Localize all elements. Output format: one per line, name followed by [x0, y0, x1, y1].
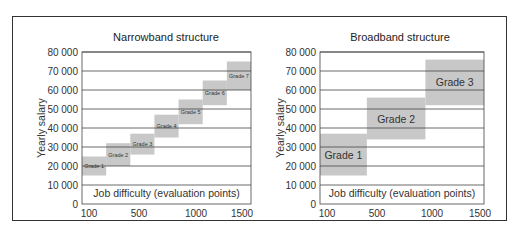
narrowband-y-tick-label: 10 000	[47, 180, 78, 191]
broadband-y-tick-label: 30 000	[285, 142, 316, 153]
narrowband-y-tick-label: 60 000	[47, 85, 78, 96]
broadband-grade-label: Grade 2	[377, 113, 415, 125]
narrowband-x-tick-label: 1000	[185, 208, 208, 219]
broadband-x-tick-label: 100	[319, 208, 336, 219]
broadband-y-tick-label: 20 000	[285, 161, 316, 172]
narrowband-grade-label: Grade 2	[108, 152, 128, 158]
broadband-y-tick-label: 50 000	[285, 104, 316, 115]
narrowband-grade-label: Grade 4	[157, 123, 177, 129]
broadband-y-tick-label: 40 000	[285, 123, 316, 134]
broadband-grade-label: Grade 3	[436, 76, 474, 88]
narrowband-grade-label: Grade 6	[205, 90, 225, 96]
narrowband-y-tick-label: 0	[72, 199, 78, 210]
broadband-y-tick-label: 10 000	[285, 180, 316, 191]
narrowband-x-axis-label: Job difficulty (evaluation points)	[93, 187, 239, 199]
narrowband-y-tick-label: 80 000	[47, 47, 78, 58]
narrowband-x-tick-label: 1500	[231, 208, 254, 219]
chart-svg: Narrowband structure010 00020 00030 0004…	[0, 0, 518, 244]
broadband-x-tick-label: 1000	[421, 208, 444, 219]
narrowband-grade-label: Grade 7	[229, 73, 249, 79]
narrowband-y-tick-label: 20 000	[47, 161, 78, 172]
narrowband-y-tick-label: 70 000	[47, 66, 78, 77]
narrowband-y-axis-label: Yearly salary	[35, 97, 47, 157]
broadband-y-tick-label: 80 000	[285, 47, 316, 58]
broadband-x-tick-label: 500	[369, 208, 386, 219]
narrowband-y-tick-label: 50 000	[47, 104, 78, 115]
narrowband-x-tick-label: 500	[131, 208, 148, 219]
narrowband-grade-label: Grade 3	[132, 141, 152, 147]
broadband-x-axis-label: Job difficulty (evaluation points)	[329, 187, 475, 199]
broadband-y-axis-label: Yearly salary	[274, 97, 286, 157]
broadband-y-tick-label: 0	[310, 199, 316, 210]
broadband-y-tick-label: 70 000	[285, 66, 316, 77]
broadband-x-tick-label: 1500	[469, 208, 492, 219]
broadband-title: Broadband structure	[350, 31, 450, 43]
narrowband-grade-label: Grade 1	[84, 163, 104, 169]
broadband-grade-label: Grade 1	[324, 149, 362, 161]
narrowband-grade-label: Grade 5	[181, 109, 201, 115]
narrowband-y-tick-label: 40 000	[47, 123, 78, 134]
narrowband-y-tick-label: 30 000	[47, 142, 78, 153]
broadband-y-tick-label: 60 000	[285, 85, 316, 96]
narrowband-x-tick-label: 100	[81, 208, 98, 219]
narrowband-title: Narrowband structure	[113, 31, 219, 43]
